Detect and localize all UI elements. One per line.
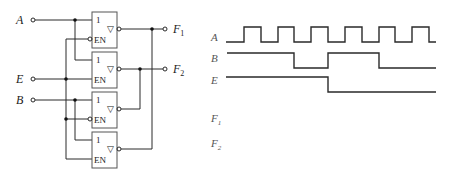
junction-e2: [64, 117, 68, 121]
gate-4-en-label: EN: [94, 155, 106, 165]
input-label-e: E: [15, 72, 24, 86]
gate-1-out-bubble: [117, 27, 121, 31]
timing-label-b: B: [211, 52, 218, 64]
junction-a: [73, 18, 77, 22]
tristate-icon: ▽: [107, 104, 114, 114]
junction-e1: [64, 77, 68, 81]
junction-b: [73, 98, 77, 102]
output-terminal-f1: [163, 27, 167, 31]
timing-label-f1: F1: [210, 112, 221, 127]
gate-3-out-bubble: [117, 107, 121, 111]
gate-2: 1 EN ▽: [92, 52, 121, 88]
timing-label-e: E: [210, 74, 218, 86]
output-terminal-f2: [163, 67, 167, 71]
gate-2-en-label: EN: [94, 75, 106, 85]
junction-f2: [138, 67, 142, 71]
wire-gate3-f2: [121, 69, 140, 109]
junction-f1: [150, 27, 154, 31]
waveform-b: [227, 53, 436, 68]
input-terminal-e: [31, 77, 35, 81]
diagram-canvas: A E B 1 EN ▽ 1: [0, 0, 453, 176]
tristate-icon: ▽: [107, 144, 114, 154]
gate-4-out-bubble: [117, 147, 121, 151]
gate-3: 1 EN ▽: [88, 92, 121, 128]
gate-4: 1 EN ▽: [92, 132, 121, 168]
wire-b-gate4: [75, 100, 92, 140]
input-label-a: A: [15, 13, 24, 27]
tristate-icon: ▽: [107, 64, 114, 74]
circuit: A E B 1 EN ▽ 1: [15, 12, 184, 168]
output-label-f1: F1: [172, 22, 184, 38]
gate-3-en-label: EN: [94, 115, 106, 125]
gate-1: 1 EN ▽: [88, 12, 121, 48]
output-label-f2: F2: [172, 62, 184, 78]
gate-1-en-label: EN: [94, 35, 106, 45]
wire-gate4-f1: [121, 29, 152, 149]
wire-e-bus: [66, 39, 92, 159]
gate-1-en-bubble: [88, 37, 92, 41]
tristate-icon: ▽: [107, 24, 114, 34]
timing-label-f2: F2: [210, 137, 222, 152]
wire-a-gate2: [75, 20, 92, 60]
input-terminal-b: [31, 98, 35, 102]
timing-label-a: A: [210, 31, 218, 43]
gate-1-label: 1: [96, 15, 101, 25]
waveform-e: [226, 77, 436, 92]
gate-4-label: 1: [96, 135, 101, 145]
gate-3-en-bubble: [88, 117, 92, 121]
gate-2-out-bubble: [117, 67, 121, 71]
input-terminal-a: [31, 18, 35, 22]
input-label-b: B: [16, 93, 24, 107]
gate-3-label: 1: [96, 95, 101, 105]
timing-diagram: A B E F1 F2: [210, 27, 436, 152]
waveform-a: [226, 27, 436, 42]
gate-2-label: 1: [96, 55, 101, 65]
